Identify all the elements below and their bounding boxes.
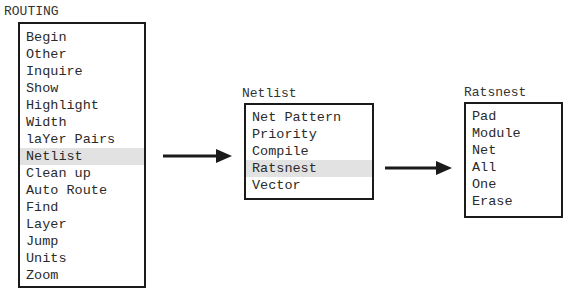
netlist-item-priority[interactable]: Priority <box>246 126 372 143</box>
routing-item-begin[interactable]: Begin <box>20 29 144 46</box>
routing-item-show[interactable]: Show <box>20 80 144 97</box>
netlist-item-compile[interactable]: Compile <box>246 143 372 160</box>
routing-item-width[interactable]: Width <box>20 114 144 131</box>
routing-item-other[interactable]: Other <box>20 46 144 63</box>
routing-item-layer-pairs[interactable]: laYer Pairs <box>20 131 144 148</box>
netlist-menu: Net Pattern Priority Compile Ratsnest Ve… <box>244 103 374 200</box>
netlist-menu-title: Netlist <box>242 87 297 101</box>
ratsnest-menu: Pad Module Net All One Erase <box>464 102 563 218</box>
routing-item-jump[interactable]: Jump <box>20 233 144 250</box>
routing-item-clean-up[interactable]: Clean up <box>20 165 144 182</box>
ratsnest-menu-title: Ratsnest <box>464 86 526 100</box>
ratsnest-item-all[interactable]: All <box>466 159 561 176</box>
netlist-item-ratsnest[interactable]: Ratsnest <box>246 160 372 177</box>
netlist-item-net-pattern[interactable]: Net Pattern <box>246 109 372 126</box>
netlist-item-vector[interactable]: Vector <box>246 177 372 194</box>
ratsnest-item-module[interactable]: Module <box>466 125 561 142</box>
routing-item-find[interactable]: Find <box>20 199 144 216</box>
arrow-right-icon <box>382 158 456 178</box>
routing-item-netlist[interactable]: Netlist <box>20 148 144 165</box>
routing-item-units[interactable]: Units <box>20 250 144 267</box>
ratsnest-item-net[interactable]: Net <box>466 142 561 159</box>
arrow-right-icon <box>160 146 236 166</box>
routing-item-highlight[interactable]: Highlight <box>20 97 144 114</box>
ratsnest-item-one[interactable]: One <box>466 176 561 193</box>
routing-item-inquire[interactable]: Inquire <box>20 63 144 80</box>
ratsnest-item-erase[interactable]: Erase <box>466 193 561 210</box>
routing-menu-title: ROUTING <box>4 5 59 19</box>
ratsnest-item-pad[interactable]: Pad <box>466 108 561 125</box>
routing-item-zoom[interactable]: Zoom <box>20 267 144 284</box>
routing-item-layer[interactable]: Layer <box>20 216 144 233</box>
routing-item-auto-route[interactable]: Auto Route <box>20 182 144 199</box>
routing-menu: Begin Other Inquire Show Highlight Width… <box>18 22 146 288</box>
